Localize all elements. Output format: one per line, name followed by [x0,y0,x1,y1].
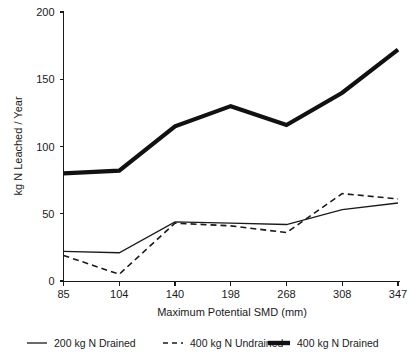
x-tick-label: 347 [389,288,407,300]
series-line [64,194,399,275]
y-tick-label: 150 [36,73,54,85]
x-tick-label: 85 [57,288,69,300]
x-axis-ticks: 85104140198268308347 [57,281,407,300]
x-tick-label: 308 [333,288,351,300]
x-tick-label: 140 [166,288,184,300]
x-tick-label: 268 [277,288,295,300]
chart-figure: 050100150200 85104140198268308347 kg N L… [0,0,415,359]
y-axis-ticks: 050100150200 [36,6,63,287]
legend-label: 200 kg N Drained [54,337,136,349]
series-line [64,50,399,174]
y-tick-label: 200 [36,6,54,18]
y-tick-label: 100 [36,141,54,153]
chart-legend: 200 kg N Drained400 kg N Undrained400 kg… [27,337,379,349]
x-tick-label: 104 [110,288,128,300]
series-line [64,203,399,253]
series-lines [64,50,399,275]
y-tick-label: 50 [42,208,54,220]
legend-label: 400 kg N Drained [297,337,379,349]
line-chart: 050100150200 85104140198268308347 kg N L… [0,0,415,359]
x-tick-label: 198 [222,288,240,300]
y-tick-label: 0 [48,275,54,287]
y-axis-title: kg N Leached / Year [12,96,24,195]
x-axis-title: Maximum Potential SMD (mm) [157,306,307,318]
